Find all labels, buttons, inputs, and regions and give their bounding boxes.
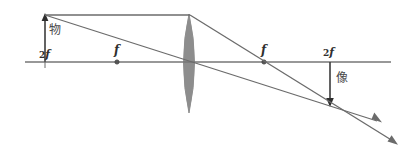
twice-focal-right-label: 2f — [323, 47, 334, 58]
object-label: 物 — [49, 24, 61, 36]
twice-focal-left-f: f — [45, 48, 50, 61]
twice-focal-right-f: f — [329, 46, 334, 59]
parallel-ray-refracted-line — [190, 15, 393, 141]
focal-point-left-marker — [115, 60, 119, 64]
chief-ray-line — [45, 15, 377, 121]
object-arrow-head-icon — [42, 13, 49, 21]
focal-right-label: f — [261, 44, 266, 56]
image-label: 像 — [336, 72, 348, 84]
focal-left-label: f — [114, 44, 119, 56]
parallel-ray-arrow-head-icon — [388, 135, 399, 145]
twice-focal-left-label: 2f — [39, 49, 50, 60]
ray-diagram-canvas — [0, 0, 417, 157]
convex-lens-shape — [184, 14, 195, 113]
lens-ray-diagram: 物 像 f f 2f 2f — [0, 0, 417, 157]
